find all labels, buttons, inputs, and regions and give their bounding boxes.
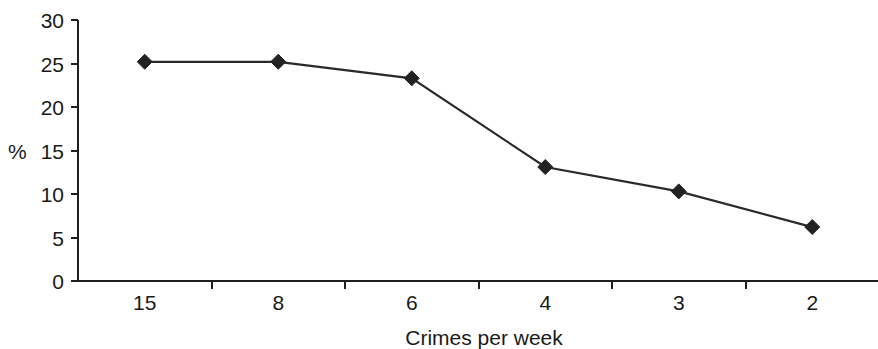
y-axis-tick-label: 25 [41, 53, 64, 76]
y-axis-tick-marks [71, 20, 78, 281]
y-axis-tick-label: 20 [41, 96, 64, 119]
y-axis-tick-label: 15 [41, 140, 64, 163]
x-axis-tick-label: 15 [133, 291, 156, 314]
x-axis-tick-marks [212, 281, 746, 289]
data-point-marker [805, 220, 820, 235]
data-point-marker [137, 54, 152, 69]
x-axis-title: Crimes per week [405, 326, 563, 349]
data-series-line [145, 62, 813, 227]
data-point-marker [538, 160, 553, 175]
x-axis-tick-label: 8 [272, 291, 284, 314]
y-axis-tick-labels: 051015202530 [41, 9, 64, 293]
y-axis-tick-label: 5 [52, 227, 64, 250]
data-point-marker [404, 71, 419, 86]
y-axis-tick-label: 10 [41, 183, 64, 206]
line-chart: 051015202530 1586432 % Crimes per week [0, 0, 878, 349]
x-axis-tick-label: 4 [539, 291, 551, 314]
y-axis-tick-label: 0 [52, 270, 64, 293]
x-axis-tick-label: 6 [406, 291, 418, 314]
data-point-marker [271, 54, 286, 69]
data-point-markers [137, 54, 820, 234]
x-axis-tick-labels: 1586432 [133, 291, 818, 314]
x-axis-tick-label: 3 [673, 291, 685, 314]
y-axis-title: % [8, 140, 27, 163]
x-axis-tick-label: 2 [806, 291, 818, 314]
chart-canvas: 051015202530 1586432 % Crimes per week [0, 0, 878, 349]
data-point-marker [671, 184, 686, 199]
y-axis-tick-label: 30 [41, 9, 64, 32]
